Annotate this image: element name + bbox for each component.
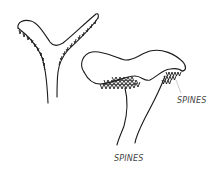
spines-label-right: SPINES — [177, 96, 207, 105]
side-view-figure — [82, 50, 186, 145]
spines-label-bottom: SPINES — [114, 154, 144, 163]
mushroom-illustration — [0, 0, 217, 170]
y-section-figure — [18, 14, 98, 103]
